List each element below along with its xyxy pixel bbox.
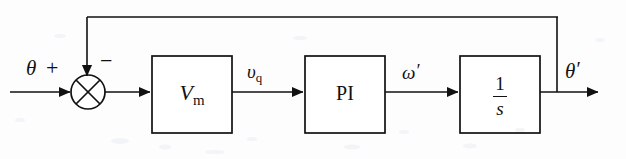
block-diagram-figure: θ + − Vm υq PI ω′ 1 s θ′ — [0, 0, 626, 159]
fraction-numerator: 1 — [493, 74, 507, 95]
pi-block-label: PI — [305, 83, 385, 103]
fraction-bar — [493, 96, 507, 97]
omega-symbol: ω — [402, 62, 415, 83]
integrator-block-label: 1 s — [460, 74, 540, 119]
vm-block-subscript: m — [193, 92, 205, 108]
vm-block-label: Vm — [152, 82, 232, 108]
theta-prime-output-label: θ′ — [565, 60, 580, 82]
vm-block-symbol: V — [179, 80, 192, 105]
theta-input-label: θ — [26, 58, 36, 79]
omega-prime-mark: ′ — [415, 61, 419, 81]
vq-signal-label: υq — [247, 62, 262, 85]
theta-output-symbol: θ — [565, 59, 575, 83]
minus-sign-label: − — [100, 50, 112, 72]
one-over-s-fraction: 1 s — [493, 74, 507, 119]
vq-subscript: q — [256, 70, 262, 85]
fraction-denominator: s — [493, 98, 507, 119]
vq-symbol: υ — [247, 61, 256, 82]
omega-prime-signal-label: ω′ — [402, 62, 419, 82]
plus-sign-label: + — [46, 57, 58, 79]
theta-output-prime-mark: ′ — [575, 58, 579, 80]
